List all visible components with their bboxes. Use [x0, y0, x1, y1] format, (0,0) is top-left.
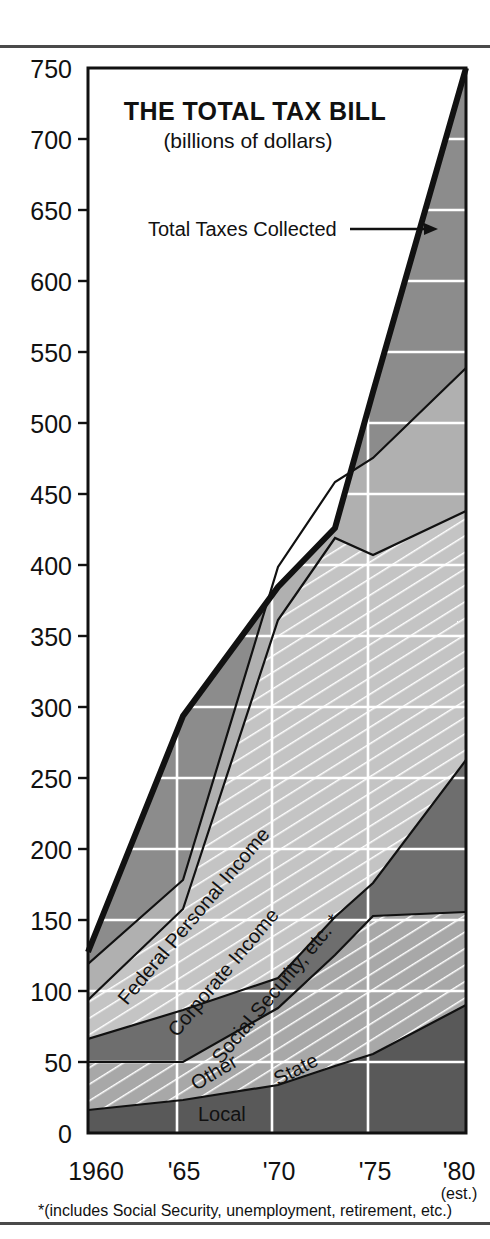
- page-subtitle: (billions of dollars): [163, 129, 332, 152]
- ytick-label: 300: [30, 694, 72, 722]
- xtick-label-1965: '65: [168, 1157, 201, 1185]
- xtick-label-1975: '75: [359, 1157, 392, 1185]
- ytick-label: 0: [58, 1120, 72, 1148]
- footnote: *(includes Social Security, unemployment…: [38, 1202, 452, 1219]
- ytick-label: 150: [30, 907, 72, 935]
- ytick-label: 600: [30, 268, 72, 296]
- chart-container: 750 700 650 600 550 500 450 400 350 300 …: [0, 0, 490, 1239]
- x-axis-labels: 1960 '65 '70 '75 '80 (est.): [68, 1157, 477, 1202]
- y-axis-labels: 750 700 650 600 550 500 450 400 350 300 …: [30, 55, 72, 1148]
- callout-label: Total Taxes Collected: [148, 218, 337, 240]
- ytick-label: 100: [30, 978, 72, 1006]
- xtick-label-1980: '80: [443, 1157, 476, 1185]
- ytick-label: 500: [30, 410, 72, 438]
- xtick-label-1960: 1960: [68, 1157, 124, 1185]
- ytick-label: 50: [44, 1049, 72, 1077]
- ytick-label: 450: [30, 481, 72, 509]
- ytick-label: 250: [30, 765, 72, 793]
- ytick-label: 750: [30, 55, 72, 83]
- page-title: THE TOTAL TAX BILL: [124, 97, 386, 125]
- ytick-label: 650: [30, 197, 72, 225]
- ytick-label: 400: [30, 552, 72, 580]
- page-canvas: 750 700 650 600 550 500 450 400 350 300 …: [0, 0, 490, 1239]
- ytick-label: 200: [30, 836, 72, 864]
- ytick-label: 550: [30, 339, 72, 367]
- band-label-local: Local: [198, 1103, 246, 1125]
- ytick-label: 350: [30, 623, 72, 651]
- tax-bill-area-chart: 750 700 650 600 550 500 450 400 350 300 …: [0, 0, 490, 1239]
- ytick-label: 700: [30, 126, 72, 154]
- x-axis-est-note: (est.): [441, 1185, 477, 1202]
- xtick-label-1970: '70: [263, 1157, 296, 1185]
